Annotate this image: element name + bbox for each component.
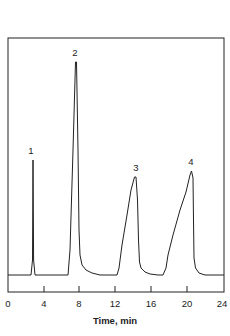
tick-label-0: 0 bbox=[5, 298, 10, 309]
peak-label-3: 3 bbox=[133, 162, 138, 173]
chromatogram-chart: 0 4 8 12 16 20 24 Time, min 1 2 3 4 bbox=[0, 0, 230, 336]
chromatogram-trace bbox=[8, 62, 224, 275]
x-axis-tick-labels: 0 4 8 12 16 20 24 bbox=[5, 298, 227, 309]
tick-label-16: 16 bbox=[146, 298, 157, 309]
x-axis-ticks bbox=[44, 286, 187, 292]
tick-label-24: 24 bbox=[217, 298, 228, 309]
tick-label-8: 8 bbox=[76, 298, 81, 309]
tick-label-4: 4 bbox=[41, 298, 46, 309]
peak-label-1: 1 bbox=[28, 145, 33, 156]
tick-label-20: 20 bbox=[182, 298, 193, 309]
peak-label-2: 2 bbox=[72, 47, 77, 58]
x-axis-label: Time, min bbox=[93, 315, 137, 326]
tick-label-12: 12 bbox=[110, 298, 121, 309]
peak-label-4: 4 bbox=[188, 156, 193, 167]
